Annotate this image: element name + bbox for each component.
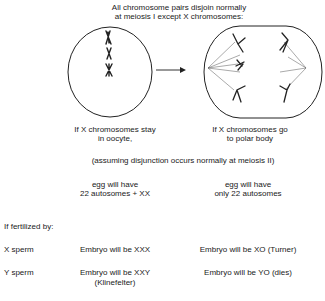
- fertilization-heading: If fertilized by:: [4, 222, 53, 231]
- outcome-xxy-note: (Klinefelter): [95, 278, 136, 287]
- right-egg-line-2: only 22 autosomes: [214, 189, 281, 198]
- outcome-xxy: Embryo will be XXY: [80, 268, 150, 277]
- left-egg-line-2: 22 autosomes + XX: [80, 189, 150, 198]
- anaphase-cell-icon: [204, 26, 322, 118]
- sperm-label-y: Y sperm: [4, 268, 34, 277]
- right-arrow-icon: [156, 67, 186, 73]
- right-egg-line-1: egg will have: [225, 180, 271, 189]
- outcome-yo: Embryo will be YO (dies): [204, 268, 292, 277]
- outcome-xxx: Embryo will be XXX: [80, 245, 150, 254]
- meiosis-diagram: [0, 0, 325, 120]
- left-caption-line-1: If X chromosomes stay: [74, 125, 155, 134]
- aligned-chromosomes-icon: [106, 31, 112, 76]
- right-caption-line-1: If X chromosomes go: [212, 125, 288, 134]
- assumption-note: (assuming disjunction occurs normally at…: [92, 156, 275, 165]
- left-egg-line-1: egg will have: [92, 180, 138, 189]
- outcome-xo: Embryo will be XO (Turner): [200, 245, 297, 254]
- left-caption-line-2: in oocyte,: [98, 134, 132, 143]
- right-caption-line-2: to polar body: [227, 134, 273, 143]
- sperm-label-x: X sperm: [4, 245, 34, 254]
- oocyte-cell-icon: [68, 27, 152, 117]
